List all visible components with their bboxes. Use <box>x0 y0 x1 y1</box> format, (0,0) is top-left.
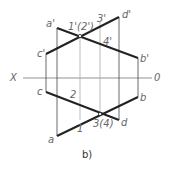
label-c: c <box>37 86 43 97</box>
label-d: d <box>121 117 128 128</box>
label-a: a <box>48 134 54 145</box>
label-1: 1 <box>77 123 83 134</box>
label-b: b <box>140 92 146 103</box>
label-1-2-prime: 1'(2') <box>68 21 94 32</box>
label-3-4: 3(4) <box>93 118 114 129</box>
label-3-prime: 3' <box>97 13 106 24</box>
label-a-prime: a' <box>46 18 55 29</box>
figure-caption: b) <box>82 149 92 160</box>
label-c-prime: c' <box>37 48 45 59</box>
label-b-prime: b' <box>140 53 149 64</box>
label-2: 2 <box>70 89 76 100</box>
intersection-3-4 <box>98 112 101 115</box>
label-d-prime: d' <box>122 9 131 20</box>
label-4-prime: 4' <box>103 36 112 47</box>
intersection-1-2-prime <box>78 34 81 37</box>
axis-label-0: 0 <box>154 72 160 83</box>
projection-diagram: X 0 a' 1'(2') 3' d' c' 4' b' c 2 b 3(4) … <box>0 0 171 174</box>
axis-label-x: X <box>9 72 18 83</box>
